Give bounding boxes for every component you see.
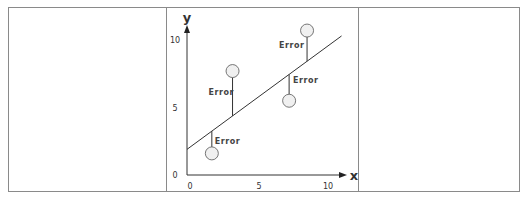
y-axis-label: y [183, 10, 192, 25]
x-tick-10: 10 [323, 182, 333, 191]
table-cell-diagram: y x 0 5 10 0 5 10 ErrorErrorErrorError [167, 8, 359, 191]
y-tick-10: 10 [170, 36, 180, 45]
data-point [283, 94, 296, 107]
data-points: ErrorErrorErrorError [205, 24, 318, 160]
error-label: Error [209, 88, 234, 97]
x-axis-label: x [350, 168, 359, 183]
data-point [205, 147, 218, 160]
x-tick-0: 0 [187, 182, 192, 191]
x-axis-arrow-icon [339, 172, 347, 178]
table-cell-left [9, 8, 167, 191]
y-tick-0: 0 [172, 171, 177, 180]
error-label: Error [215, 137, 240, 146]
table-cell-right [359, 8, 519, 191]
data-point [301, 24, 314, 37]
error-label: Error [293, 76, 318, 85]
x-tick-5: 5 [256, 182, 261, 191]
layout-table: y x 0 5 10 0 5 10 ErrorErrorErrorError [8, 7, 520, 192]
y-tick-5: 5 [172, 104, 177, 113]
y-axis-arrow-icon [184, 25, 190, 33]
regression-diagram: y x 0 5 10 0 5 10 ErrorErrorErrorError [167, 8, 359, 191]
data-point [226, 65, 239, 78]
error-label: Error [279, 41, 304, 50]
